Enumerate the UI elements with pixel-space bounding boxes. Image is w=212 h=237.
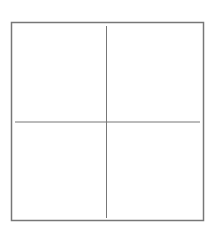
- quadrant-diagram-svg: [0, 0, 212, 237]
- quadrant-diagram: [0, 0, 212, 237]
